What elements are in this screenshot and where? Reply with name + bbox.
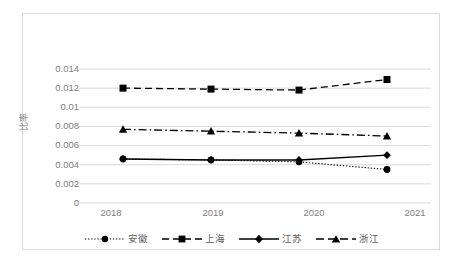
data-point-marker <box>207 156 215 164</box>
data-point-marker <box>120 85 127 92</box>
data-point-marker <box>384 166 391 173</box>
legend-swatch-solid-diamond-icon <box>239 233 279 245</box>
data-point-marker <box>384 76 391 83</box>
series-lines <box>123 80 387 170</box>
x-tick-label: 2020 <box>284 207 344 219</box>
x-tick-label: 2018 <box>81 207 141 219</box>
legend-item-jiangsu[interactable]: 江苏 <box>239 233 302 245</box>
chart-container: 比率 0.014 0.012 0.01 0.008 0.006 0.004 0.… <box>22 13 440 250</box>
legend-swatch-dotted-circle-icon <box>85 233 125 245</box>
legend-swatch-dashed-square-icon <box>162 233 202 245</box>
legend-label: 江苏 <box>282 233 302 245</box>
legend-item-anhui[interactable]: 安徽 <box>85 233 148 245</box>
data-point-marker <box>119 155 127 163</box>
data-point-marker <box>296 87 303 94</box>
series-line-3 <box>123 129 387 136</box>
legend-label: 上海 <box>205 233 225 245</box>
legend-item-shanghai[interactable]: 上海 <box>162 233 225 245</box>
legend-label: 安徽 <box>128 233 148 245</box>
chart-legend: 安徽 上海 江苏 浙江 <box>23 233 441 245</box>
series-line-2 <box>123 155 387 160</box>
data-point-marker <box>383 151 391 159</box>
x-tick-label: 2021 <box>385 207 445 219</box>
x-tick-label: 2019 <box>183 207 243 219</box>
series-markers <box>119 76 391 173</box>
legend-swatch-dashdot-triangle-icon <box>316 233 356 245</box>
legend-item-zhejiang[interactable]: 浙江 <box>316 233 379 245</box>
data-point-marker <box>208 86 215 93</box>
legend-label: 浙江 <box>359 233 379 245</box>
